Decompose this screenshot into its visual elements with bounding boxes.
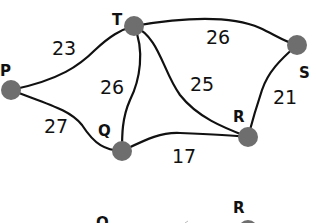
weight-P-T: 23 <box>52 37 76 59</box>
second-graph-label-Q: Q <box>96 214 109 223</box>
edge-T-Q <box>122 26 140 151</box>
weight-T-R: 25 <box>190 73 214 95</box>
weight-T-S: 26 <box>206 26 230 48</box>
node-P <box>1 80 21 100</box>
node-Q <box>112 141 132 161</box>
weighted-graph-diagram: P T S Q R 23 26 26 25 21 27 17 Q R <box>0 0 316 223</box>
node-S <box>287 35 307 55</box>
weight-S-R: 21 <box>273 86 297 108</box>
node-label-Q: Q <box>98 122 111 140</box>
node-T <box>124 16 144 36</box>
second-graph-node-R <box>238 220 258 223</box>
weight-Q-R: 17 <box>172 145 196 167</box>
second-graph-edge-hint <box>185 221 188 223</box>
weight-P-Q: 27 <box>44 115 68 137</box>
node-R <box>238 127 258 147</box>
second-graph-label-R: R <box>233 199 245 217</box>
node-label-S: S <box>299 64 310 82</box>
weight-T-Q: 26 <box>100 76 124 98</box>
node-label-P: P <box>0 62 11 80</box>
node-label-T: T <box>112 11 123 29</box>
node-label-R: R <box>233 108 245 126</box>
